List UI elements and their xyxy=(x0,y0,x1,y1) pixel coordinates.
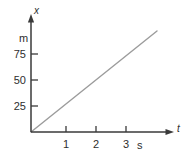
x-axis-unit-label: s xyxy=(137,140,143,151)
position-time-chart: x m 75 50 25 1 2 3 s t xyxy=(0,0,188,157)
chart-canvas xyxy=(0,0,188,157)
data-line-position xyxy=(31,31,157,132)
x-tick-label-3: 3 xyxy=(117,139,135,150)
x-tick-label-1: 1 xyxy=(57,139,75,150)
x-axis-arrow-icon xyxy=(166,129,175,135)
x-axis-name-label: t xyxy=(177,124,180,134)
y-axis-name-label: x xyxy=(34,6,39,16)
y-tick-label-25: 25 xyxy=(2,101,26,112)
y-axis-unit-label: m xyxy=(19,33,28,44)
y-tick-label-50: 50 xyxy=(2,75,26,86)
y-tick-label-75: 75 xyxy=(2,49,26,60)
x-tick-label-2: 2 xyxy=(87,139,105,150)
